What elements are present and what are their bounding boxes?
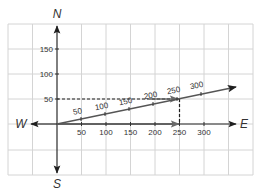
y-tick-label: 100: [40, 70, 54, 79]
diagram-canvas: 50 100 150 200 250 300 50 100 150 50 100…: [0, 0, 262, 192]
x-tick-label: 250: [173, 128, 187, 137]
north-label: N: [53, 7, 62, 21]
y-tick-label: 150: [40, 45, 54, 54]
y-tick-label: 50: [44, 95, 53, 104]
x-tick-label: 150: [124, 128, 138, 137]
vector-diagram: 50 100 150 200 250 300 50 100 150 50 100…: [0, 0, 262, 192]
south-label: S: [53, 177, 61, 191]
west-label: W: [15, 117, 28, 131]
diagonal-tick-label: 150: [118, 96, 133, 107]
x-tick-label: 50: [77, 128, 86, 137]
x-tick-label: 100: [99, 128, 113, 137]
diagonal-tick-label: 100: [94, 101, 109, 112]
east-label: E: [240, 117, 249, 131]
diagonal-tick-label: 300: [189, 80, 204, 91]
x-tick-label: 300: [197, 128, 211, 137]
x-tick-label: 200: [148, 128, 162, 137]
